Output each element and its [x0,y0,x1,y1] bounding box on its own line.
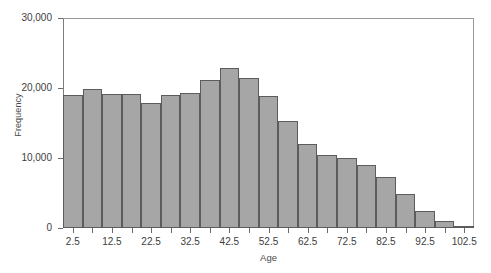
x-tick-label: 22.5 [131,236,171,247]
y-tick-label: 0 [4,223,52,233]
y-tick-label: 10,000 [4,153,52,163]
x-tick-label: 42.5 [209,236,249,247]
x-tick-label: 102.5 [444,236,484,247]
x-tick-label: 52.5 [249,236,289,247]
x-tick-label: 72.5 [327,236,367,247]
x-tick-label: 32.5 [170,236,210,247]
y-tick-label: 30,000 [4,13,52,23]
x-tick-label: 62.5 [288,236,328,247]
x-tick-label: 2.5 [53,236,93,247]
y-tick-label: 20,000 [4,83,52,93]
histogram-chart: Frequency 010,00020,00030,000 2.512.522.… [0,0,491,273]
x-tick-label: 12.5 [92,236,132,247]
x-axis-tick-labels: 2.512.522.532.542.552.562.572.582.592.51… [63,0,474,273]
x-tick-label: 82.5 [366,236,406,247]
x-axis-title: Age [63,252,474,263]
y-axis-tick-labels: 010,00020,00030,000 [0,0,52,273]
x-tick-label: 92.5 [405,236,445,247]
